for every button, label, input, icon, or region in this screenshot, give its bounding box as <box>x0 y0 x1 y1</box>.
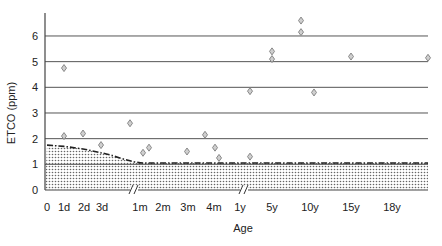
data-point <box>349 53 354 60</box>
etco-chart: 012345601d2d3d1m2m3m4m1y5y10y15y18y Age … <box>0 0 442 246</box>
data-point <box>299 29 304 36</box>
x-tick-label: 10y <box>301 201 319 213</box>
x-tick-label: 18y <box>383 201 401 213</box>
data-point <box>426 54 431 61</box>
data-point <box>81 130 86 137</box>
data-point <box>248 153 253 160</box>
y-tick-label: 1 <box>32 158 38 170</box>
data-point <box>217 154 222 161</box>
x-tick-label: 2m <box>155 201 170 213</box>
y-tick-label: 2 <box>32 133 38 145</box>
data-point <box>312 89 317 96</box>
x-tick-label: 2d <box>78 201 90 213</box>
data-point <box>147 144 152 151</box>
x-tick-label: 5y <box>266 201 278 213</box>
y-tick-label: 3 <box>32 107 38 119</box>
data-point <box>62 65 67 72</box>
data-point <box>203 131 208 138</box>
x-tick-label: 3m <box>180 201 195 213</box>
data-point <box>270 48 275 55</box>
y-tick-label: 6 <box>32 30 38 42</box>
data-point <box>213 144 218 151</box>
x-tick-label: 1m <box>132 201 147 213</box>
x-tick-label: 3d <box>96 201 108 213</box>
data-point <box>99 142 104 149</box>
data-point <box>185 148 190 155</box>
x-axis-label: Age <box>233 222 253 234</box>
data-point <box>299 17 304 24</box>
y-axis-label: ETCO (ppm) <box>5 82 17 144</box>
normal-range-area <box>45 145 428 190</box>
x-tick-label: 15y <box>342 201 360 213</box>
y-tick-label: 5 <box>32 56 38 68</box>
x-tick-label: 1d <box>58 201 70 213</box>
x-tick-label: 1y <box>234 201 246 213</box>
x-tick-label: 0 <box>44 201 50 213</box>
y-tick-label: 0 <box>32 184 38 196</box>
data-point <box>128 120 133 127</box>
x-tick-label: 4m <box>206 201 221 213</box>
data-point <box>141 149 146 156</box>
data-point <box>248 88 253 95</box>
y-tick-label: 4 <box>32 81 38 93</box>
